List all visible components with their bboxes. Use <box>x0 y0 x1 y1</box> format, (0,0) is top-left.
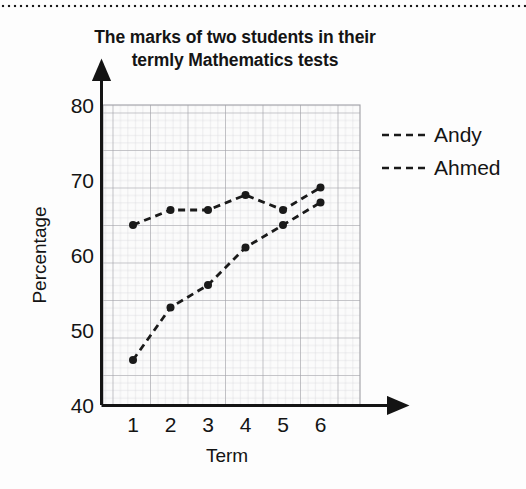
chart-page: The marks of two students in their terml… <box>0 0 526 489</box>
data-point-andy-term-1[interactable] <box>129 356 137 364</box>
data-point-ahmed-term-6[interactable] <box>317 184 325 192</box>
x-tick-label-3: 3 <box>202 413 214 436</box>
y-tick-label-70: 70 <box>71 169 94 192</box>
y-tick-label-40: 40 <box>71 394 94 417</box>
data-point-andy-term-2[interactable] <box>167 304 175 312</box>
line-chart-svg: 40 50 60 70 80 1 2 3 4 5 6 Term Percenta… <box>0 0 526 489</box>
legend-label-andy: Andy <box>434 123 482 146</box>
data-point-andy-term-4[interactable] <box>242 244 250 252</box>
data-point-andy-term-6[interactable] <box>317 199 325 207</box>
data-point-ahmed-term-4[interactable] <box>242 191 250 199</box>
plot-grid <box>103 105 360 405</box>
legend: Andy Ahmed <box>382 123 501 179</box>
y-tick-label-60: 60 <box>71 244 94 267</box>
data-point-andy-term-3[interactable] <box>204 281 212 289</box>
y-tick-labels: 40 50 60 70 80 <box>71 94 94 417</box>
y-tick-label-50: 50 <box>71 319 94 342</box>
legend-item-ahmed[interactable]: Ahmed <box>382 156 501 179</box>
y-tick-label-80: 80 <box>71 94 94 117</box>
x-tick-label-5: 5 <box>277 413 289 436</box>
x-tick-labels: 1 2 3 4 5 6 <box>127 413 326 436</box>
y-axis-label: Percentage <box>29 206 50 303</box>
x-tick-label-1: 1 <box>127 413 139 436</box>
x-tick-label-4: 4 <box>240 413 252 436</box>
x-tick-label-6: 6 <box>315 413 327 436</box>
data-point-ahmed-term-3[interactable] <box>204 206 212 214</box>
data-point-ahmed-term-2[interactable] <box>167 206 175 214</box>
x-tick-label-2: 2 <box>165 413 177 436</box>
data-point-andy-term-5[interactable] <box>279 221 287 229</box>
data-point-ahmed-term-5[interactable] <box>279 206 287 214</box>
legend-label-ahmed: Ahmed <box>434 156 501 179</box>
x-axis-label: Term <box>206 445 248 466</box>
legend-item-andy[interactable]: Andy <box>382 123 482 146</box>
data-point-ahmed-term-1[interactable] <box>129 221 137 229</box>
